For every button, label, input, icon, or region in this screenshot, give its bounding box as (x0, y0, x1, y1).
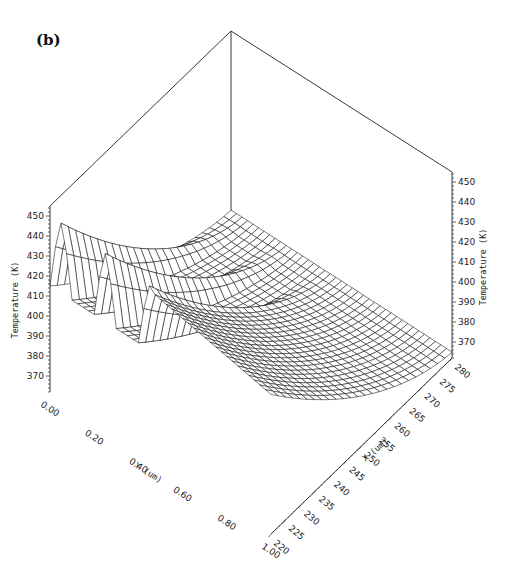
axis-box (50, 31, 452, 216)
z-tick-label: 420 (458, 237, 475, 247)
y-axis-title: Y (um) (133, 460, 164, 485)
x-tick-label: 280 (453, 362, 473, 381)
z-tick-label: 380 (458, 317, 475, 327)
z-tick-label: 430 (27, 251, 44, 261)
y-tick-label: 0.80 (216, 513, 238, 532)
x-tick-label: 235 (317, 494, 337, 513)
x-tick-label: 270 (423, 391, 443, 410)
z-tick-label: 440 (27, 231, 44, 241)
x-tick-label: 275 (438, 377, 458, 396)
z-tick-label: 430 (458, 217, 475, 227)
y-tick-label: 0.20 (83, 428, 105, 447)
z-tick-label: 440 (458, 197, 475, 207)
y-tick-label: 0.00 (39, 399, 61, 418)
z-tick-label: 380 (27, 351, 44, 361)
z-tick-label: 370 (27, 371, 44, 381)
x-tick-label: 230 (302, 509, 322, 528)
y-tick-label: 0.60 (172, 484, 194, 503)
x-tick-label: 260 (392, 421, 412, 440)
z-axis-right-title: Temperature (K) (478, 229, 488, 306)
surface-plot: 370380390400410420430440450 370380390400… (0, 0, 507, 565)
x-tick-label: 225 (287, 523, 307, 542)
x-tick-label: 245 (347, 465, 367, 484)
z-axis-left: 370380390400410420430440450 (27, 206, 50, 392)
z-axis-left-title: Temperature (K) (10, 262, 20, 339)
z-tick-label: 410 (27, 291, 44, 301)
z-tick-label: 370 (458, 337, 475, 347)
x-tick-label: 240 (332, 479, 352, 498)
z-tick-label: 390 (27, 331, 44, 341)
z-tick-label: 450 (458, 177, 475, 187)
z-tick-label: 400 (27, 311, 44, 321)
z-tick-label: 450 (27, 211, 44, 221)
z-tick-label: 410 (458, 257, 475, 267)
z-tick-label: 390 (458, 297, 475, 307)
x-tick-label: 265 (407, 406, 427, 425)
wireframe-surface (50, 210, 452, 400)
z-axis-right: 370380390400410420430440450 (452, 172, 475, 358)
z-tick-label: 400 (458, 277, 475, 287)
z-tick-label: 420 (27, 271, 44, 281)
